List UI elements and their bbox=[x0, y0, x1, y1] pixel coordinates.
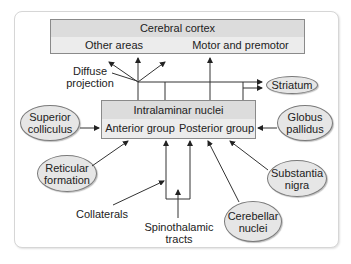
collaterals-arrow bbox=[113, 181, 164, 205]
cerebellar-arrow bbox=[208, 141, 239, 202]
nigra-arrow bbox=[230, 141, 268, 170]
diffuse-arrow-right bbox=[138, 62, 165, 82]
reticular-arrow bbox=[92, 141, 128, 166]
connection-lines bbox=[0, 0, 351, 264]
diffuse-arrow-left bbox=[109, 62, 138, 82]
